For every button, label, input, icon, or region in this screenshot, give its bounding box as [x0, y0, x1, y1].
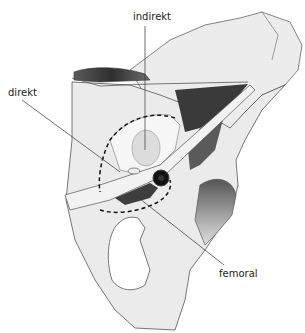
pubic-ramus	[195, 179, 236, 245]
label-indirect: indirekt	[133, 12, 171, 22]
pelvis-body	[66, 82, 285, 330]
hernia-diagram	[0, 0, 305, 333]
label-femoral: femoral	[219, 269, 258, 279]
label-direct: direkt	[8, 88, 37, 98]
indirect-ring	[132, 130, 160, 166]
obturator-foramen	[108, 217, 150, 290]
